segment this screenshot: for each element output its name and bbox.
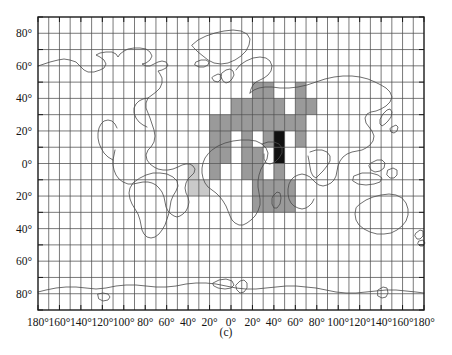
data-cell [274,164,285,180]
world-grid-map: 180°160°140°120°100°80°60°40°20°0°20°40°… [0,0,452,355]
data-cell [231,98,242,114]
data-cell [210,131,221,147]
data-cell [263,98,274,114]
figure-caption: (c) [220,326,233,339]
data-cell [231,115,242,131]
y-axis-tick-label: 80° [16,27,33,39]
x-axis-tick-label: 40° [180,316,197,328]
data-cell [242,164,253,180]
data-cell [188,180,199,196]
x-axis-tick-label: 140° [70,316,92,328]
coastline-layer [38,30,425,301]
y-axis-tick-label: 20° [16,190,33,202]
data-cell [220,147,231,163]
data-cell [295,82,306,98]
data-cell [295,131,306,147]
data-cell [263,180,274,196]
data-cell [242,115,253,131]
data-cell [263,82,274,98]
x-axis-tick-label: 120° [91,316,113,328]
data-cell [199,180,210,196]
y-axis-tick-label: 40° [16,223,33,235]
figure-panel: 180°160°140°120°100°80°60°40°20°0°20°40°… [0,0,452,355]
x-axis-tick-label: 60° [287,316,304,328]
grid-lines-layer [38,17,424,310]
x-axis-tick-label: 80° [137,316,154,328]
x-axis-tick-label: 100° [327,316,349,328]
y-axis-tick-label: 40° [16,92,33,104]
y-axis-tick-label: 20° [16,125,33,137]
data-cell [263,131,274,147]
x-axis-tick-label: 100° [113,316,135,328]
data-cell [252,115,263,131]
x-axis-tick-label: 180° [27,316,49,328]
data-cell [274,196,285,212]
data-cell [252,164,263,180]
data-cell [210,164,221,180]
data-cell [242,147,253,163]
y-axis-tick-label: 0° [22,158,33,170]
x-axis-tick-label: 160° [392,316,414,328]
data-cell [285,196,296,212]
x-axis-tick-label: 20° [244,316,261,328]
data-cell [274,98,285,114]
data-cell [242,98,253,114]
x-axis-tick-label: 80° [309,316,326,328]
data-cell [295,115,306,131]
data-cell [274,115,285,131]
y-axis-tick-label: 60° [16,255,33,267]
x-axis-tick-label: 180° [413,316,435,328]
x-axis-tick-label: 120° [349,316,371,328]
data-cell [306,98,317,114]
x-axis-tick-label: 40° [266,316,283,328]
x-axis-tick-label: 60° [159,316,176,328]
data-cell [252,98,263,114]
x-axis-tick-label: 160° [49,316,71,328]
x-axis-tick-label: 140° [370,316,392,328]
data-cell [252,147,263,163]
y-axis-labels: 80°60°40°20°0°20°40°60°80° [16,27,33,299]
data-cell [242,131,253,147]
data-cell [285,115,296,131]
data-cell [220,131,231,147]
y-axis-tick-label: 80° [16,288,33,300]
data-cell [252,196,263,212]
data-cell [220,115,231,131]
data-cell [210,115,221,131]
data-cell [295,98,306,114]
x-axis-tick-label: 20° [202,316,219,328]
data-cell [210,147,221,163]
data-cell [263,115,274,131]
y-axis-tick-label: 60° [16,60,33,72]
